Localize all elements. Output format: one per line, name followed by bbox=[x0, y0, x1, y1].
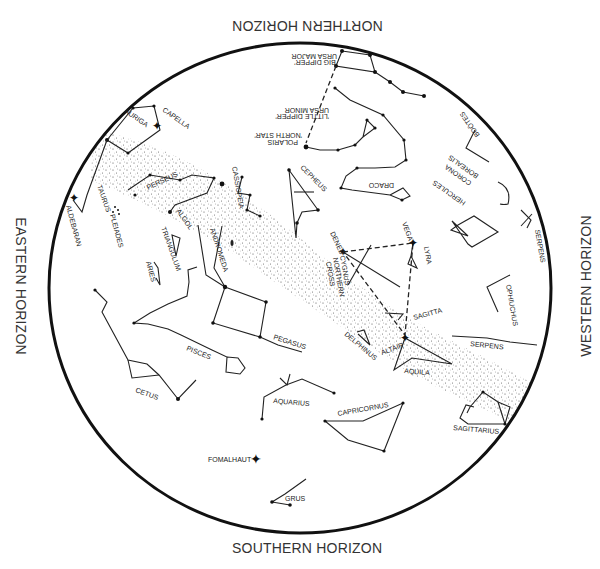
pisces bbox=[132, 267, 245, 374]
label-pisces: PISCES bbox=[186, 344, 213, 360]
label-north-star: 'NORTH STAR' bbox=[254, 132, 302, 139]
fomalhaut-star: ✦ bbox=[250, 451, 262, 467]
grus bbox=[270, 479, 306, 507]
label-lyra: LYRA bbox=[423, 246, 433, 265]
label-little-dipper: 'LITTLE DIPPER' bbox=[275, 113, 329, 120]
label-cetus: CETUS bbox=[135, 386, 160, 401]
aquarius bbox=[260, 374, 335, 421]
label-capricornus: CAPRICORNUS bbox=[337, 401, 389, 417]
label-aquarius: AQUARIUS bbox=[273, 397, 310, 408]
label-draco: DRACO bbox=[368, 182, 394, 189]
label-polaris: POLARIS bbox=[267, 139, 298, 146]
label-vega: VEGA bbox=[401, 221, 414, 242]
star-chart: ✦ ✦ bbox=[0, 0, 600, 569]
label-sagittarius: SAGITTARIUS bbox=[453, 424, 500, 435]
label-big-dipper: 'BIG DIPPER' bbox=[294, 59, 337, 66]
label-triangulum: TRIANGULUM bbox=[160, 226, 182, 272]
ursa-minor bbox=[304, 118, 377, 151]
label-auriga: AURIGA bbox=[123, 107, 149, 128]
label-cepheus: CEPHEUS bbox=[299, 164, 328, 193]
label-capella: CAPELLA bbox=[161, 106, 191, 130]
label-serpens: SERPENS bbox=[470, 340, 504, 350]
label-hercules: HERCULES bbox=[431, 179, 467, 207]
label-grus: GRUS bbox=[285, 495, 306, 502]
label-ursa-minor: URSA MINOR bbox=[285, 107, 329, 114]
label-ophiuchus: OPHIUCHUS bbox=[505, 284, 519, 327]
label-pleiades: PLEIADES bbox=[109, 213, 125, 248]
label-aldebaran: ALDEBARAN bbox=[65, 204, 83, 247]
label-sagitta: SAGITTA bbox=[412, 307, 443, 321]
svg-text:✦: ✦ bbox=[152, 119, 162, 133]
label-ursa-major: URSA MAJOR bbox=[291, 53, 337, 60]
svg-text:✦: ✦ bbox=[69, 191, 79, 205]
hercules bbox=[451, 216, 498, 247]
label-pegasus: PEGASUS bbox=[273, 333, 308, 350]
cetus bbox=[93, 288, 196, 401]
corona-borealis bbox=[498, 182, 509, 205]
pointer-line bbox=[306, 66, 336, 143]
label-fomalhaut: FOMALHAUT bbox=[208, 456, 252, 463]
